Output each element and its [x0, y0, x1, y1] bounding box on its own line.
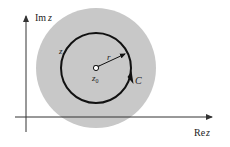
contour-label: C — [135, 75, 142, 86]
radius-label: r — [107, 52, 111, 62]
center-point — [93, 65, 98, 70]
imaginary-axis-label: Imz — [35, 12, 52, 23]
point-z-label: z — [58, 46, 63, 56]
real-axis-label: Rez — [194, 127, 210, 138]
complex-plane-diagram: Imz Rez z r z0 C — [0, 0, 230, 147]
